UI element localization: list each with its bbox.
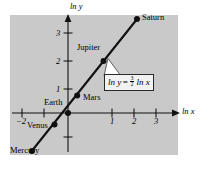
planet-label-jupiter: Jupiter <box>77 43 100 52</box>
equation-equals: = <box>123 77 128 87</box>
planet-label-earth: Earth <box>44 98 62 107</box>
y-tick-label-1: 1 <box>56 85 60 94</box>
data-point-earth <box>65 110 71 116</box>
planet-label-saturn: Saturn <box>142 13 164 22</box>
x-tick-label-3: 3 <box>154 117 158 126</box>
planet-label-venus: Venus <box>27 121 48 130</box>
log-log-plot-figure: ln y ln x −2 1 2 3 3 2 1 Mercury Venus E… <box>0 0 200 170</box>
x-tick-label-1: 1 <box>110 117 114 126</box>
data-point-mars <box>74 93 80 99</box>
data-point-jupiter <box>101 58 107 64</box>
equation-text: ln y = 3 2 ln x <box>108 76 150 88</box>
data-point-venus <box>52 122 58 128</box>
x-axis-label: ln x <box>182 107 195 116</box>
y-tick-label-3: 3 <box>56 29 60 38</box>
planet-label-mars: Mars <box>83 93 100 102</box>
y-tick-label-2: 2 <box>56 57 60 66</box>
x-tick-label--2: −2 <box>16 117 26 126</box>
data-point-saturn <box>134 16 140 22</box>
x-tick-label-2: 2 <box>132 117 136 126</box>
planet-label-mercury: Mercury <box>10 146 39 155</box>
y-axis-label: ln y <box>70 2 83 11</box>
y-axis <box>65 14 72 152</box>
equation-fraction: 3 2 <box>129 76 135 88</box>
equation-lhs: ln y <box>108 77 121 87</box>
fraction-denominator: 2 <box>130 82 135 87</box>
equation-rhs: ln x <box>136 77 149 87</box>
equation-callout-box: ln y = 3 2 ln x <box>104 74 154 91</box>
